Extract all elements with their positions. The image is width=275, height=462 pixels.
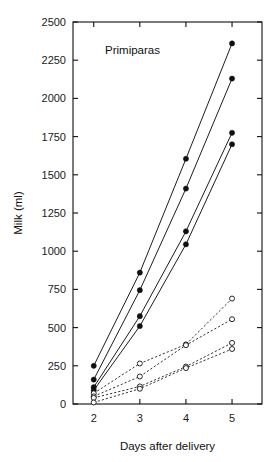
data-point-open bbox=[230, 346, 235, 351]
y-tick-label: 1000 bbox=[42, 245, 66, 257]
data-point-open bbox=[230, 340, 235, 345]
y-axis-title: Milk (ml) bbox=[12, 191, 24, 235]
y-tick-label: 2500 bbox=[42, 16, 66, 28]
data-point-filled bbox=[183, 242, 188, 247]
x-axis-title: Days after delivery bbox=[120, 440, 215, 452]
x-tick-label: 4 bbox=[183, 412, 189, 424]
x-tick-label: 3 bbox=[137, 412, 143, 424]
y-tick-label: 500 bbox=[48, 322, 66, 334]
data-point-filled bbox=[137, 323, 142, 328]
data-point-filled bbox=[229, 76, 234, 81]
data-point-filled bbox=[183, 156, 188, 161]
plot-annotation: Primiparas bbox=[105, 44, 160, 56]
data-point-filled bbox=[137, 314, 142, 319]
data-point-open bbox=[137, 361, 142, 366]
y-tick-label: 0 bbox=[60, 398, 66, 410]
data-point-filled bbox=[91, 377, 96, 382]
data-point-open bbox=[91, 400, 96, 405]
milk-volume-line-chart: 0250500750100012501500175020002250250023… bbox=[0, 0, 275, 462]
data-point-open bbox=[137, 374, 142, 379]
data-point-filled bbox=[229, 41, 234, 46]
x-tick-label: 2 bbox=[91, 412, 97, 424]
data-point-open bbox=[183, 366, 188, 371]
data-point-filled bbox=[229, 142, 234, 147]
data-point-open bbox=[230, 317, 235, 322]
figure-container: 0250500750100012501500175020002250250023… bbox=[0, 0, 275, 462]
y-tick-label: 750 bbox=[48, 283, 66, 295]
y-tick-label: 250 bbox=[48, 360, 66, 372]
data-point-filled bbox=[183, 229, 188, 234]
data-point-filled bbox=[137, 270, 142, 275]
data-point-open bbox=[183, 343, 188, 348]
data-point-filled bbox=[183, 186, 188, 191]
data-point-filled bbox=[137, 288, 142, 293]
x-tick-label: 5 bbox=[229, 412, 235, 424]
y-tick-label: 1500 bbox=[42, 169, 66, 181]
data-point-filled bbox=[229, 130, 234, 135]
y-tick-label: 1750 bbox=[42, 131, 66, 143]
data-point-filled bbox=[91, 363, 96, 368]
y-tick-label: 1250 bbox=[42, 207, 66, 219]
y-tick-label: 2000 bbox=[42, 92, 66, 104]
data-point-open bbox=[230, 296, 235, 301]
data-point-open bbox=[137, 386, 142, 391]
y-tick-label: 2250 bbox=[42, 54, 66, 66]
